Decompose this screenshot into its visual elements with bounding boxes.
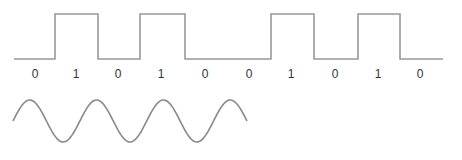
digital-square-wave [14,14,443,59]
bit-label: 0 [239,67,259,81]
bit-label: 1 [368,67,388,81]
bit-label: 0 [325,67,345,81]
bit-label: 0 [410,67,430,81]
bit-label: 1 [151,67,171,81]
bit-label: 0 [108,67,128,81]
bit-label: 0 [25,67,45,81]
analog-sine-wave [13,100,247,142]
bit-label: 1 [66,67,86,81]
bit-label: 0 [195,67,215,81]
bit-label: 1 [281,67,301,81]
